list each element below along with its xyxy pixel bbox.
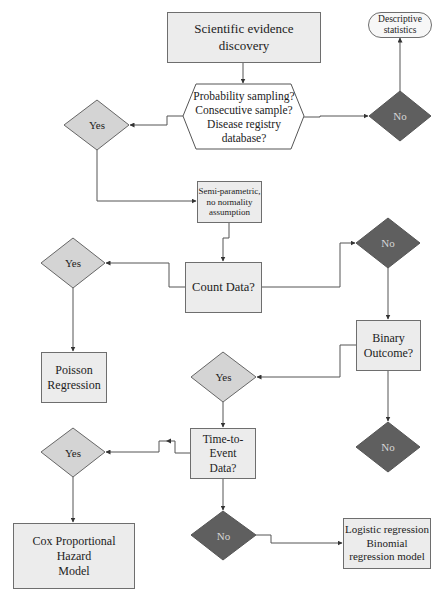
- semiparam-line2: no normality: [206, 197, 252, 208]
- question-line-4: database?: [222, 131, 267, 145]
- question-line-1: Probability sampling?: [193, 89, 294, 103]
- time-event-line2: Data?: [210, 461, 237, 475]
- yes1-label: Yes: [64, 100, 130, 150]
- jog-arrow-mark: [166, 439, 171, 444]
- semi-parametric-node: Semi-parametric, no normality assumption: [197, 181, 262, 223]
- question-line-3: Disease registry: [207, 117, 281, 131]
- logistic-line1: Logistic regression: [345, 523, 429, 536]
- logistic-line3: regression model: [349, 550, 424, 563]
- edge-time-to-yes4: [106, 441, 190, 453]
- cox-model-node: Cox Proportional Hazard Model: [13, 523, 135, 589]
- edge-question-to-yes1: [130, 116, 183, 125]
- logistic-regression-node: Logistic regression Binomial regression …: [343, 518, 431, 569]
- binary-line2: Outcome?: [364, 346, 413, 361]
- start-node-line1: Scientific evidence: [194, 21, 293, 37]
- count-data-node: Count Data?: [185, 262, 262, 313]
- edge-no4-to-logistic: [256, 535, 342, 543]
- no1-label: No: [369, 91, 431, 141]
- no4-label: No: [191, 511, 256, 560]
- yes2-label: Yes: [41, 238, 105, 288]
- descriptive-statistics-node: Descriptive statistics: [368, 12, 432, 38]
- question-line-2: Consecutive sample?: [195, 103, 292, 117]
- cox-line2: Model: [58, 564, 89, 579]
- edge-question-to-no1: [304, 116, 368, 117]
- logistic-line2: Binomial: [367, 537, 408, 550]
- poisson-line2: Regression: [47, 378, 100, 393]
- poisson-line1: Poisson: [55, 363, 92, 378]
- start-node: Scientific evidence discovery: [167, 12, 321, 63]
- edge-count-to-no2: [261, 243, 355, 287]
- yes3-label: Yes: [191, 352, 256, 402]
- binary-line1: Binary: [372, 331, 405, 346]
- binary-outcome-node: Binary Outcome?: [356, 320, 421, 371]
- edge-count-to-yes2: [106, 263, 185, 287]
- cox-line1: Cox Proportional Hazard: [14, 534, 134, 564]
- descriptive-line2: statistics: [384, 25, 417, 36]
- semiparam-line1: Semi-parametric,: [198, 186, 260, 197]
- edge-yes1-to-semiparam: [97, 150, 196, 201]
- sampling-question-node: Probability sampling? Consecutive sample…: [186, 86, 302, 148]
- edge-binary-to-yes3: [257, 345, 356, 377]
- descriptive-line1: Descriptive: [378, 14, 422, 25]
- no3-label: No: [356, 422, 420, 472]
- flowchart-canvas: Scientific evidence discovery Probabilit…: [0, 0, 447, 604]
- count-data-label: Count Data?: [192, 280, 255, 296]
- start-node-line2: discovery: [219, 38, 270, 54]
- time-event-line1: Time-to-Event: [191, 432, 255, 461]
- edge-semiparam-to-count: [223, 222, 229, 261]
- poisson-regression-node: Poisson Regression: [41, 352, 107, 403]
- yes4-label: Yes: [41, 428, 105, 477]
- time-to-event-node: Time-to-Event Data?: [190, 428, 256, 479]
- no2-label: No: [356, 218, 420, 268]
- semiparam-line3: assumption: [209, 207, 250, 218]
